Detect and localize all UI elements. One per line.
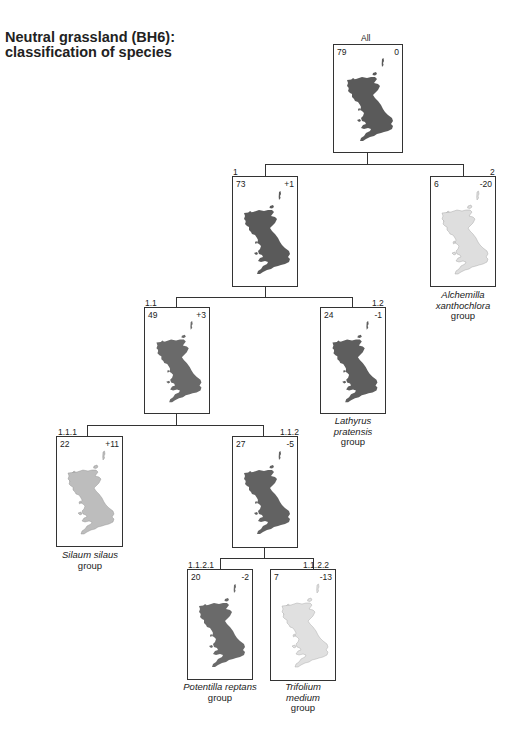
map-box-all: 79 0 [333,44,403,153]
map-box-1: 73 +1 [232,176,298,287]
species-count: 27 [236,439,245,449]
map-box-1-1-2-2: 7 -13 [270,569,336,681]
map-box-1-1-2-1: 20 -2 [187,569,253,680]
title-line-1: Neutral grassland (BH6): [5,30,175,45]
species-count: 20 [191,572,200,582]
change-value: -20 [480,179,492,189]
change-value: +3 [196,310,206,320]
connector-level2-horizontal [176,297,353,298]
species-name: Silaum silaus [45,550,135,561]
connector-to-node-2 [463,164,464,176]
connector-level3-horizontal [87,425,264,426]
node-id-label: All [361,33,370,43]
species-count: 49 [148,310,157,320]
group-caption-1-2: Lathyrus pratensis group [310,416,396,448]
species-count: 79 [337,47,346,57]
connector-to-node-1-2 [352,297,353,307]
map-box-1-2: 24 -1 [320,307,386,414]
group-caption-1-1-1: Silaum silaus group [45,550,135,571]
species-count: 22 [60,439,69,449]
group-caption-1-1-2-1: Potentilla reptans group [172,682,268,703]
connector-to-node-1-1 [176,297,177,307]
map-box-1-1: 49 +3 [144,307,210,414]
connector-level4-horizontal [220,558,314,559]
change-value: +11 [105,439,119,449]
species-count: 6 [434,179,439,189]
species-count: 7 [274,572,279,582]
group-label: group [420,311,506,322]
page-corner-mark [432,0,492,4]
connector-node-1-1-down [176,413,177,425]
change-value: -5 [286,439,294,449]
gb-distribution-map [338,57,398,149]
map-box-1-1-1: 22 +11 [56,436,123,547]
connector-to-node-1 [265,164,266,176]
connector-root-down [367,152,368,164]
species-name: Potentilla reptans [172,682,268,693]
connector-node-1-down [265,286,266,297]
group-caption-2: Alchemilla xanthochlora group [420,290,506,322]
group-label: group [265,703,341,714]
gb-distribution-map [192,582,248,676]
group-label: group [172,693,268,704]
species-count: 24 [324,310,333,320]
connector-node-1-1-2-down [264,548,265,558]
connector-to-node-1-1-2-1 [220,558,221,569]
gb-distribution-map [325,320,381,410]
gb-distribution-map [237,449,293,543]
map-box-2: 6 -20 [430,176,496,287]
gb-distribution-map [149,320,205,410]
change-value: 0 [394,47,399,57]
group-label: group [45,561,135,572]
change-value: -2 [241,572,249,582]
group-label: group [310,437,396,448]
connector-to-node-1-1-1 [87,425,88,436]
connector-level1-horizontal [265,164,464,165]
map-box-1-1-2: 27 -5 [232,436,298,548]
species-count: 73 [236,179,245,189]
species-name: Alchemilla [420,290,506,301]
change-value: -13 [320,572,332,582]
connector-to-node-1-1-2 [263,425,264,436]
title-line-2: classification of species [5,45,175,60]
species-name: Lathyrus [310,416,396,427]
group-caption-1-1-2-2: Trifolium medium group [265,682,341,714]
page-title: Neutral grassland (BH6): classification … [5,30,175,60]
change-value: -1 [374,310,382,320]
gb-distribution-map [435,189,491,283]
change-value: +1 [284,179,294,189]
gb-distribution-map [237,189,293,283]
gb-distribution-map [275,582,331,676]
species-name: Trifolium [265,682,341,693]
gb-distribution-map [61,449,117,543]
